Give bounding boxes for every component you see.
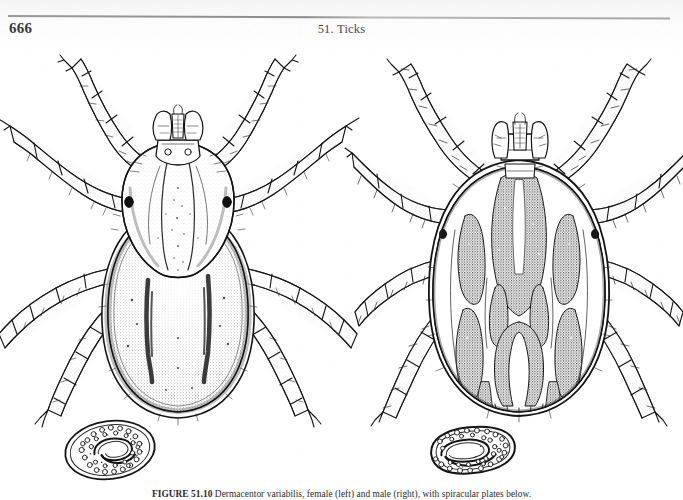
eye-right xyxy=(591,229,598,238)
figure-illustration xyxy=(0,38,683,486)
female-tick-drawing xyxy=(0,38,360,428)
spiracular-plate-female-drawing xyxy=(48,416,188,486)
scutum-ornate xyxy=(429,160,609,418)
male-tick-dorsal-view xyxy=(355,38,683,428)
leg-front-right xyxy=(543,59,651,186)
spiracular-plate-male xyxy=(413,416,553,486)
chapter-running-title: 51. Ticks xyxy=(0,22,683,37)
running-header: 666 51. Ticks xyxy=(0,0,683,40)
figure-caption-text: Dermacentor variabilis, female (left) an… xyxy=(215,489,531,499)
figure-caption: FIGURE 51.10 Dermacentor variabilis, fem… xyxy=(0,489,683,500)
leg-front-left xyxy=(387,59,495,186)
eye-left xyxy=(125,197,134,208)
header-rule xyxy=(8,15,670,20)
male-tick-drawing xyxy=(355,38,683,428)
leg-second-right xyxy=(583,148,683,232)
leg-second-left xyxy=(345,148,455,232)
eye-right xyxy=(223,197,232,208)
spiracular-plate-female xyxy=(48,416,188,486)
figure-caption-label: FIGURE 51.10 xyxy=(152,489,213,499)
capitulum xyxy=(153,105,203,165)
eye-left xyxy=(439,229,446,238)
female-tick-dorsal-view xyxy=(0,38,360,428)
spiracular-plate-male-drawing xyxy=(413,416,553,486)
